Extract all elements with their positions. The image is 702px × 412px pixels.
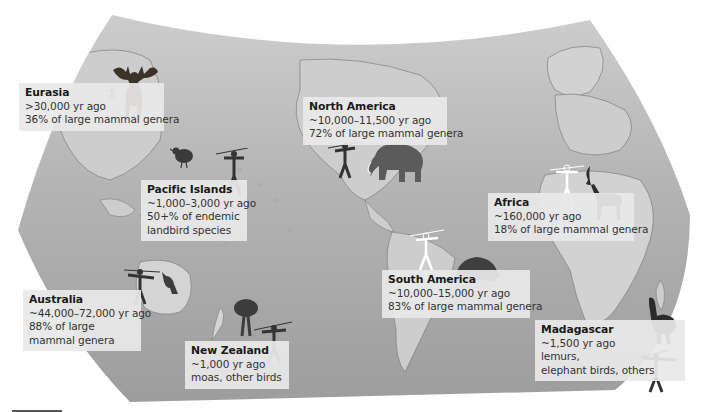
label-new-zealand-arrival: ~1,000 yr ago: [191, 358, 284, 372]
label-madagascar-name: Madagascar: [541, 323, 680, 337]
label-africa-line-1: 18% of large mammal genera: [494, 223, 629, 237]
kiwi-bird-icon: [170, 145, 196, 169]
label-australia-arrival: ~44,000–72,000 yr ago: [29, 307, 136, 321]
label-africa: Africa ~160,000 yr ago 18% of large mamm…: [488, 193, 634, 241]
label-pacific-islands-line-2: landbird species: [147, 224, 242, 238]
label-south-america-line-1: 83% of large mammal genera: [388, 300, 525, 314]
label-pacific-islands: Pacific Islands ~1,000–3,000 yr ago 50+%…: [141, 180, 247, 241]
label-north-america: North America ~10,000–11,500 yr ago 72% …: [303, 97, 447, 145]
label-new-zealand-name: New Zealand: [191, 344, 284, 358]
label-australia-line-1: 88% of large: [29, 320, 136, 334]
label-north-america-arrival: ~10,000–11,500 yr ago: [309, 114, 442, 128]
mammoth-icon: [365, 140, 427, 182]
label-eurasia-line-1: 36% of large mammal genera: [25, 113, 159, 127]
label-africa-arrival: ~160,000 yr ago: [494, 210, 629, 224]
label-africa-name: Africa: [494, 196, 629, 210]
label-south-america-arrival: ~10,000–15,000 yr ago: [388, 287, 525, 301]
label-eurasia-arrival: >30,000 yr ago: [25, 100, 159, 114]
label-eurasia-name: Eurasia: [25, 86, 159, 100]
label-australia-name: Australia: [29, 293, 136, 307]
label-eurasia: Eurasia >30,000 yr ago 36% of large mamm…: [19, 83, 164, 131]
label-new-zealand: New Zealand ~1,000 yr ago moas, other bi…: [185, 341, 289, 389]
label-new-zealand-line-1: moas, other birds: [191, 371, 284, 385]
label-madagascar-arrival: ~1,500 yr ago: [541, 337, 680, 351]
label-australia: Australia ~44,000–72,000 yr ago 88% of l…: [23, 290, 141, 351]
label-north-america-line-1: 72% of large mammal genera: [309, 127, 442, 141]
human-outline-south-america-icon: [410, 228, 444, 272]
label-australia-line-2: mammal genera: [29, 334, 136, 348]
label-pacific-islands-arrival: ~1,000–3,000 yr ago: [147, 197, 242, 211]
label-pacific-islands-name: Pacific Islands: [147, 183, 242, 197]
label-madagascar: Madagascar ~1,500 yr ago lemurs, elephan…: [535, 320, 685, 381]
label-south-america: South America ~10,000–15,000 yr ago 83% …: [382, 270, 530, 318]
label-madagascar-line-2: elephant birds, others: [541, 364, 680, 378]
kangaroo-icon: [158, 270, 180, 296]
label-north-america-name: North America: [309, 100, 442, 114]
label-south-america-name: South America: [388, 273, 525, 287]
label-pacific-islands-line-1: 50+% of endemic: [147, 210, 242, 224]
label-madagascar-line-1: lemurs,: [541, 350, 680, 364]
